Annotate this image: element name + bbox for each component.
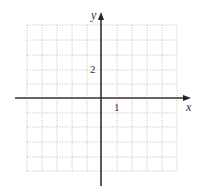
y-axis-label: y xyxy=(91,9,96,21)
x-tick-label-1: 1 xyxy=(114,102,120,113)
y-axis xyxy=(98,12,104,186)
grid-svg xyxy=(0,0,204,195)
y-tick-label-2: 2 xyxy=(90,64,96,75)
x-axis-label: x xyxy=(186,101,191,113)
y-axis-arrow-icon xyxy=(98,12,104,20)
x-axis xyxy=(15,95,191,101)
